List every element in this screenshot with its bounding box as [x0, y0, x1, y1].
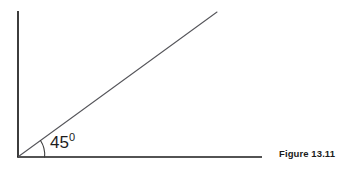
- angle-measure-value: 45: [50, 133, 69, 152]
- figure-diagram: 450 Figure 13.11: [0, 0, 352, 171]
- figure-caption: Figure 13.11: [279, 148, 335, 159]
- inclined-ray-line: [19, 12, 218, 157]
- degree-symbol: 0: [69, 131, 75, 143]
- angle-arc: [41, 141, 45, 158]
- angle-measure-label: 450: [50, 132, 75, 151]
